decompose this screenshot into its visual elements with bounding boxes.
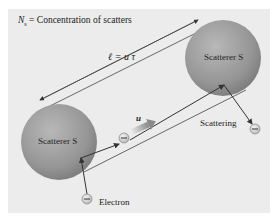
electron-path [81, 85, 252, 194]
electron-start-icon [82, 194, 92, 204]
mean-free-path-label: ℓ = u τ [108, 51, 135, 62]
lower-tangent-line [84, 90, 246, 172]
concentration-label: Ns = Concentration of scatters [18, 15, 132, 27]
scattering-label: Scattering [200, 118, 237, 128]
electron-mid-icon [119, 133, 129, 143]
electron-scattered-icon [250, 124, 260, 134]
drift-velocity-arrow [130, 116, 159, 138]
scatterer-right-label: Scatterer S [204, 52, 243, 62]
diagram-graphics [0, 0, 278, 222]
electron-label: Electron [99, 197, 130, 207]
scatterer-left-label: Scatterer S [38, 136, 77, 146]
upper-tangent-line [44, 28, 206, 109]
drift-velocity-label: u [136, 113, 141, 123]
